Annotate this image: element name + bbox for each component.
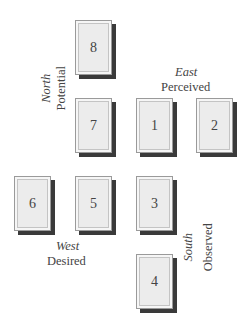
north-label: Potential xyxy=(55,58,68,118)
south-label: Observed xyxy=(202,217,215,277)
card-number: 7 xyxy=(90,118,97,134)
card-number: 4 xyxy=(151,274,158,290)
card-2: 2 xyxy=(196,98,233,153)
card-number: 6 xyxy=(29,196,36,212)
card-number: 2 xyxy=(211,118,218,134)
south-direction-label: South xyxy=(182,227,195,267)
card-8: 8 xyxy=(75,20,112,75)
card-6: 6 xyxy=(14,176,51,231)
card-1: 1 xyxy=(136,98,173,153)
east-direction-label: East xyxy=(175,66,197,79)
card-number: 1 xyxy=(151,118,158,134)
east-label: Perceived xyxy=(161,81,210,94)
card-number: 8 xyxy=(90,40,97,56)
north-direction-label: North xyxy=(40,70,53,106)
card-number: 5 xyxy=(90,196,97,212)
card-4: 4 xyxy=(136,254,173,309)
card-number: 3 xyxy=(151,196,158,212)
card-5: 5 xyxy=(75,176,112,231)
west-label: Desired xyxy=(47,255,86,268)
west-direction-label: West xyxy=(56,240,79,253)
card-3: 3 xyxy=(136,176,173,231)
card-7: 7 xyxy=(75,98,112,153)
